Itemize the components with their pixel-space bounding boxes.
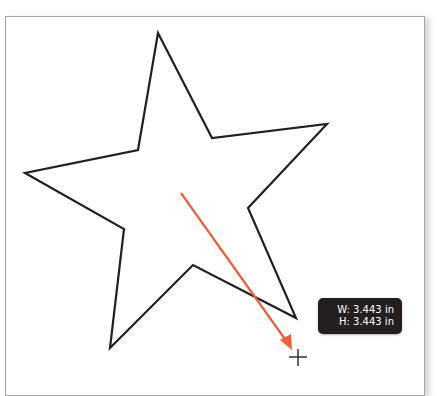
star-shape[interactable] — [25, 33, 327, 348]
tooltip-height: H: 3.443 in — [339, 316, 394, 328]
tooltip-width: W: 3.443 in — [337, 304, 394, 316]
crosshair-icon — [289, 349, 307, 366]
dimension-tooltip: W: 3.443 in H: 3.443 in — [318, 298, 402, 334]
